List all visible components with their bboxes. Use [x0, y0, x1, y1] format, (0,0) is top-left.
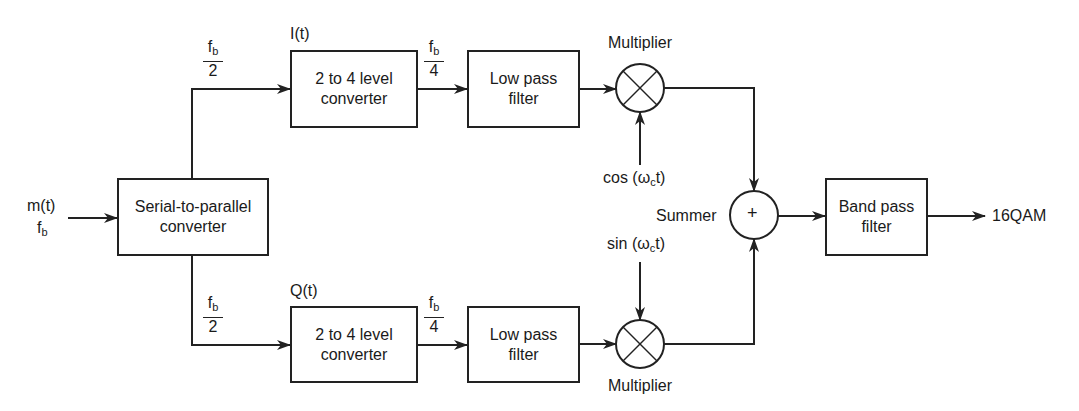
- serial-to-parallel-block: Serial-to-parallel converter: [117, 178, 269, 256]
- multiplier-top-label: Multiplier: [608, 33, 672, 52]
- bottom-low-pass-filter-block: Low pass filter: [467, 306, 580, 383]
- multiplier-top: [616, 64, 664, 112]
- rate-half-top: fb 2: [203, 38, 223, 80]
- multiplier-bottom-label: Multiplier: [608, 376, 672, 395]
- top-low-pass-filter-block: Low pass filter: [467, 50, 580, 128]
- band-pass-filter-block: Band pass filter: [825, 178, 928, 256]
- sin-carrier-label: sin (ωct): [607, 234, 665, 258]
- output-label: 16QAM: [992, 206, 1046, 225]
- input-signal-label: m(t): [27, 196, 55, 215]
- i-channel-label: I(t): [290, 24, 310, 43]
- multiplier-bottom: [616, 320, 664, 368]
- input-rate-label: fb: [37, 218, 48, 242]
- summer-plus: +: [747, 204, 758, 223]
- bottom-level-converter-block: 2 to 4 level converter: [290, 306, 418, 383]
- cos-carrier-label: cos (ωct): [603, 168, 665, 192]
- top-level-converter-block: 2 to 4 level converter: [290, 50, 418, 128]
- q-channel-label: Q(t): [290, 281, 318, 300]
- rate-half-bottom: fb 2: [203, 294, 223, 336]
- rate-quarter-top: fb 4: [424, 38, 444, 80]
- rate-quarter-bottom: fb 4: [424, 294, 444, 336]
- summer-label: Summer: [656, 206, 716, 225]
